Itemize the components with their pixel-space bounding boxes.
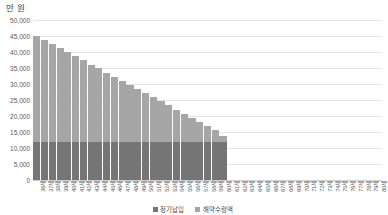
- x-axis-tick-label: 60세: [225, 181, 233, 192]
- bar-segment-surrender-value: [204, 126, 211, 142]
- bar-segment-surrender-value: [41, 40, 48, 143]
- legend-item-label: 정기납입: [160, 205, 184, 214]
- bar-segment-regular-payment: [119, 142, 126, 180]
- bars-layer: [33, 20, 382, 180]
- bar-column: [119, 81, 126, 180]
- bar-segment-regular-payment: [157, 142, 164, 180]
- x-axis-tick-label: 36세: [39, 181, 47, 192]
- bar-segment-regular-payment: [173, 142, 180, 180]
- legend-swatch-icon: [195, 207, 200, 212]
- bar-segment-surrender-value: [95, 68, 102, 142]
- bar-column: [204, 126, 211, 180]
- bar-segment-regular-payment: [41, 142, 48, 180]
- bar-segment-surrender-value: [88, 65, 95, 143]
- y-axis-tick-label: 20,000: [10, 113, 30, 120]
- bar-segment-regular-payment: [134, 142, 141, 180]
- legend-item-label: 해약수령액: [203, 205, 233, 214]
- y-axis-tick-label: 5,000: [14, 161, 30, 168]
- bar-segment-surrender-value: [80, 60, 87, 142]
- chart-legend: 정기납입해약수령액: [0, 205, 385, 214]
- x-axis-tick-label: 51세: [155, 181, 163, 192]
- x-axis-tick-label: 43세: [93, 181, 101, 192]
- bar-segment-regular-payment: [80, 142, 87, 180]
- bar-column: [49, 44, 56, 180]
- bar-column: [181, 114, 188, 180]
- bar-column: [103, 72, 110, 180]
- bar-segment-surrender-value: [72, 56, 79, 142]
- bar-column: [165, 105, 172, 180]
- bar-column: [64, 52, 71, 180]
- plot-area: [33, 20, 382, 180]
- bar-segment-surrender-value: [181, 114, 188, 142]
- x-axis-tick-label: 77세: [357, 181, 365, 192]
- bar-segment-surrender-value: [188, 118, 195, 143]
- bar-column: [80, 60, 87, 180]
- bar-segment-surrender-value: [150, 97, 157, 142]
- bar-column: [157, 101, 164, 180]
- x-axis-tick-label: 80세: [380, 181, 388, 192]
- bar-segment-surrender-value: [196, 122, 203, 142]
- bar-column: [188, 118, 195, 180]
- bar-column: [126, 85, 133, 180]
- bar-segment-regular-payment: [49, 142, 56, 180]
- bar-column: [150, 97, 157, 180]
- bar-segment-regular-payment: [72, 142, 79, 180]
- bar-column: [134, 89, 141, 180]
- legend-swatch-icon: [153, 207, 158, 212]
- x-axis-tick-label: 61세: [233, 181, 241, 192]
- x-axis-tick-label: 57세: [202, 181, 210, 192]
- bar-segment-surrender-value: [103, 73, 110, 143]
- bar-segment-surrender-value: [64, 52, 71, 142]
- x-axis-tick-label: 40세: [70, 181, 78, 192]
- bar-segment-surrender-value: [212, 130, 219, 142]
- y-axis-tick-labels: 50,00045,00040,00035,00030,00025,00020,0…: [0, 20, 30, 180]
- bar-segment-regular-payment: [142, 142, 149, 180]
- bar-segment-surrender-value: [142, 93, 149, 142]
- bar-segment-surrender-value: [126, 85, 133, 142]
- bar-column: [95, 68, 102, 180]
- bar-segment-regular-payment: [33, 142, 40, 180]
- bar-segment-regular-payment: [57, 142, 64, 180]
- legend-item[interactable]: 해약수령액: [195, 205, 233, 214]
- legend-item[interactable]: 정기납입: [153, 205, 185, 214]
- x-axis-tick-label: 68세: [287, 181, 295, 192]
- bar-segment-surrender-value: [49, 44, 56, 143]
- bar-column: [111, 77, 118, 180]
- bar-segment-regular-payment: [219, 142, 226, 180]
- bar-column: [212, 130, 219, 180]
- y-axis-unit-title: 만 원: [6, 1, 26, 13]
- bar-segment-surrender-value: [111, 77, 118, 143]
- bar-segment-surrender-value: [119, 81, 126, 142]
- y-axis-tick-label: 10,000: [10, 145, 30, 152]
- bar-segment-regular-payment: [204, 142, 211, 180]
- x-axis-tick-label: 76세: [349, 181, 357, 192]
- y-axis-tick-label: 15,000: [10, 129, 30, 136]
- bar-segment-regular-payment: [103, 142, 110, 180]
- y-axis-tick-label: 50,000: [10, 17, 30, 24]
- bar-column: [173, 110, 180, 180]
- x-axis-tick-label: 72세: [318, 181, 326, 192]
- bar-column: [219, 136, 226, 180]
- bar-segment-surrender-value: [33, 36, 40, 143]
- y-axis-tick-label: 40,000: [10, 49, 30, 56]
- bar-column: [196, 122, 203, 180]
- x-axis-tick-label: 56세: [194, 181, 202, 192]
- x-axis-tick-label: 73세: [326, 181, 334, 192]
- bar-segment-regular-payment: [64, 142, 71, 180]
- y-axis-tick-label: 35,000: [10, 65, 30, 72]
- bar-segment-regular-payment: [196, 142, 203, 180]
- x-axis-tick-label: 65세: [264, 181, 272, 192]
- x-axis-tick-label: 69세: [295, 181, 303, 192]
- y-axis-tick-label: 45,000: [10, 33, 30, 40]
- bar-segment-regular-payment: [126, 142, 133, 180]
- x-axis-tick-labels: 36세37세38세39세40세41세42세43세44세45세46세47세48세4…: [33, 181, 382, 203]
- bar-column: [33, 36, 40, 180]
- bar-segment-regular-payment: [88, 142, 95, 180]
- bar-column: [41, 40, 48, 180]
- y-axis-tick-label: 25,000: [10, 97, 30, 104]
- bar-segment-surrender-value: [134, 89, 141, 142]
- x-axis-tick-label: 47세: [124, 181, 132, 192]
- x-axis-tick-label: 48세: [132, 181, 140, 192]
- x-axis-tick-label: 39세: [62, 181, 70, 192]
